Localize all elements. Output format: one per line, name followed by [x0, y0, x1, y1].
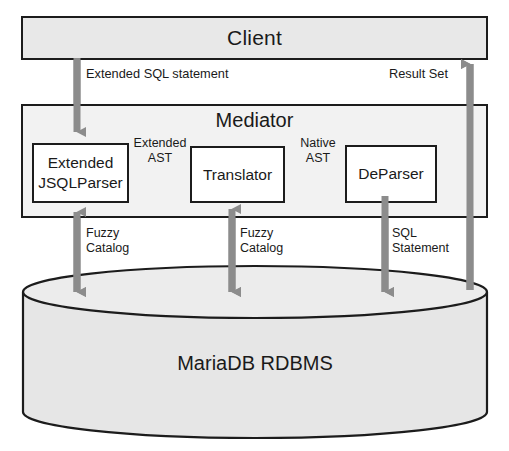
deparser-node: DeParser	[345, 145, 437, 203]
client-label: Client	[227, 26, 282, 50]
diagram-canvas: Client Mediator Extended JSQLParser Tran…	[0, 0, 509, 451]
edge-label-extended-sql-statement: Extended SQL statement	[86, 66, 229, 82]
extended-jsqlparser-node: Extended JSQLParser	[32, 143, 129, 203]
mediator-label: Mediator	[23, 109, 486, 131]
edge-label-native-ast: Native AST	[292, 136, 344, 167]
extended-jsqlparser-label-line2: JSQLParser	[38, 173, 122, 193]
edge-label-fuzzy-catalog-left: Fuzzy Catalog	[86, 226, 129, 257]
edge-label-fuzzy-catalog-mid: Fuzzy Catalog	[240, 226, 283, 257]
extended-jsqlparser-label-line1: Extended	[48, 153, 114, 173]
translator-node: Translator	[190, 146, 285, 203]
edge-label-extended-ast: Extended AST	[131, 136, 189, 167]
edge-label-sql-statement: SQL Statement	[392, 226, 449, 257]
database-label: MariaDB RDBMS	[23, 352, 487, 375]
translator-label: Translator	[203, 166, 272, 183]
client-node: Client	[21, 16, 488, 60]
edge-label-result-set: Result Set	[389, 66, 448, 82]
deparser-label: DeParser	[358, 165, 423, 182]
